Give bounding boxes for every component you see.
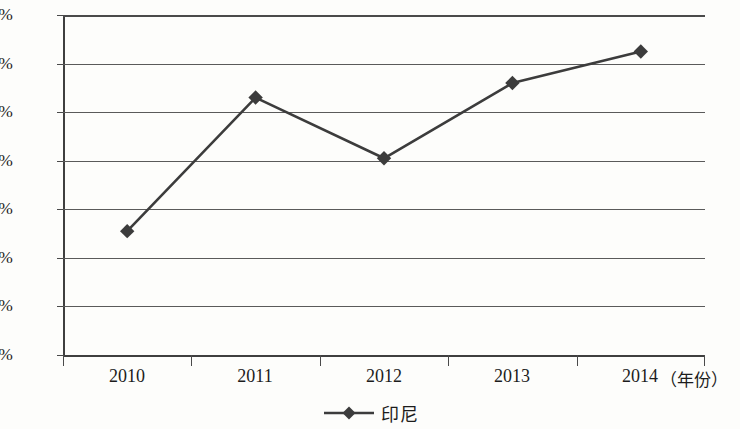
series-line-indonesia (127, 51, 641, 231)
data-point-2013 (505, 76, 519, 90)
legend: 印尼 (0, 400, 740, 426)
data-point-2014 (634, 44, 648, 58)
legend-label-indonesia: 印尼 (378, 400, 418, 426)
data-point-2012 (377, 151, 391, 165)
series-markers-indonesia (120, 44, 648, 238)
line-chart: 14% 12% 10% 8% 6% 4% 2% 0% 2010 2011 201… (0, 0, 740, 429)
legend-marker-icon (322, 405, 376, 421)
legend-entry-indonesia: 印尼 (322, 400, 418, 426)
series-layer (0, 0, 740, 429)
